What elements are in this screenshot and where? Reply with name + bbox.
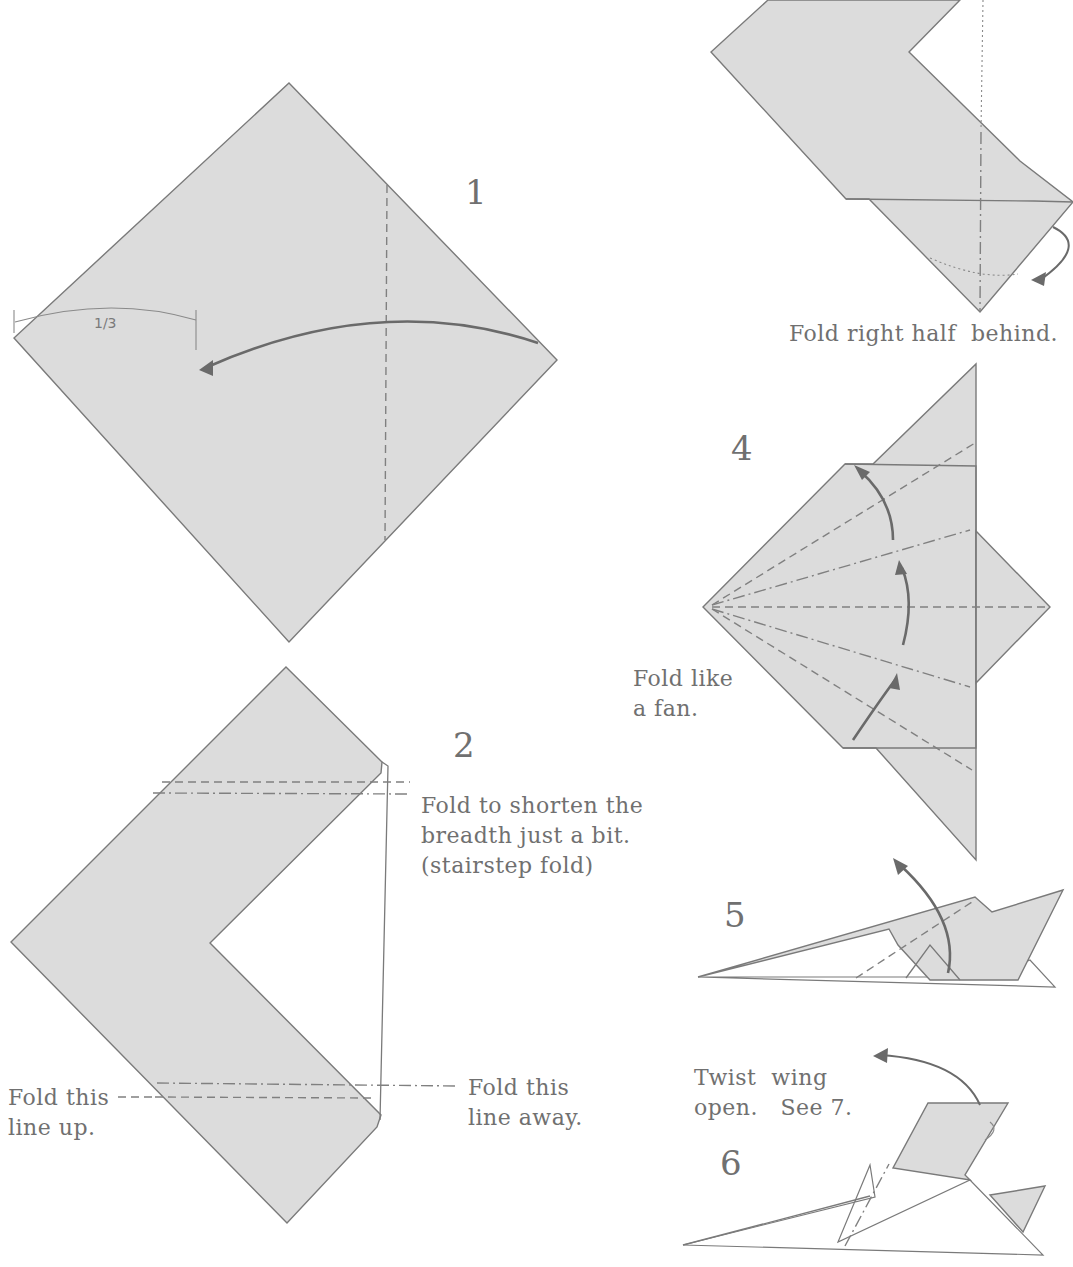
fan-note-line-2: a fan. [633,695,699,723]
step-5-number: 5 [724,895,746,935]
fold-up-note-line-1: Fold this [8,1084,109,1112]
fold-away-note-line-1: Fold this [468,1074,569,1102]
one-third-measure: 1/3 [92,315,119,331]
step-4-figure [703,364,1050,860]
stairstep-note-line-3: (stairstep fold) [421,852,594,880]
twist-note-line-2: open. See 7. [694,1094,853,1122]
step-6-number: 6 [720,1143,742,1183]
fold-away-note-line-2: line away. [468,1104,583,1132]
fan-note-line-1: Fold like [633,665,733,693]
step-1-number: 1 [465,172,487,212]
stairstep-note-line-1: Fold to shorten the [421,792,643,820]
step-1-figure [14,83,557,642]
fold-up-note-line-2: line up. [8,1114,96,1142]
step-3-figure [711,0,1073,312]
step-5-figure [698,858,1063,987]
stairstep-note-line-2: breadth just a bit. [421,822,631,850]
twist-note-line-1: Twist wing [694,1064,828,1092]
step-4-number: 4 [731,428,753,468]
fold-behind-caption: Fold right half behind. [789,320,1058,348]
step-2-number: 2 [453,725,475,765]
